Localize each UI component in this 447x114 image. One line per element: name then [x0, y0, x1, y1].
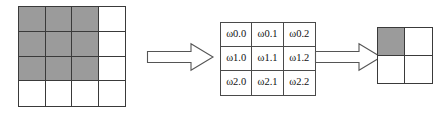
- input-cell-1-0: [19, 32, 46, 57]
- input-cell-3-1: [46, 81, 73, 106]
- input-cell-2-1: [46, 57, 73, 82]
- input-cell-3-2: [72, 81, 99, 106]
- output-cell-0-0: [378, 28, 405, 56]
- input-cell-0-2: [72, 7, 99, 32]
- kernel-cell-0-0: ω0.0: [221, 23, 252, 47]
- input-cell-1-1: [46, 32, 73, 57]
- convolution-diagram: ω0.0ω0.1ω0.2ω1.0ω1.1ω1.2ω2.0ω2.1ω2.2: [0, 0, 447, 114]
- output-cell-1-0: [378, 56, 405, 84]
- kernel-cell-0-1: ω0.1: [252, 23, 283, 47]
- input-cell-2-0: [19, 57, 46, 82]
- input-feature-map: [18, 6, 126, 107]
- convolution-kernel: ω0.0ω0.1ω0.2ω1.0ω1.1ω1.2ω2.0ω2.1ω2.2: [220, 22, 316, 96]
- kernel-cell-1-0: ω1.0: [221, 47, 252, 71]
- input-cell-0-1: [46, 7, 73, 32]
- input-cell-2-3: [99, 57, 126, 82]
- output-feature-map: [377, 27, 433, 84]
- arrow-kernel-to-output-icon: [315, 43, 382, 71]
- input-cell-0-0: [19, 7, 46, 32]
- kernel-cell-2-1: ω2.1: [252, 71, 283, 95]
- input-cell-1-3: [99, 32, 126, 57]
- input-cell-3-0: [19, 81, 46, 106]
- input-cell-1-2: [72, 32, 99, 57]
- input-cell-0-3: [99, 7, 126, 32]
- input-cell-3-3: [99, 81, 126, 106]
- output-cell-1-1: [405, 56, 432, 84]
- kernel-cell-2-2: ω2.2: [284, 71, 315, 95]
- input-cell-2-2: [72, 57, 99, 82]
- kernel-cell-1-2: ω1.2: [284, 47, 315, 71]
- arrow-input-to-kernel-icon: [147, 43, 214, 71]
- kernel-cell-2-0: ω2.0: [221, 71, 252, 95]
- kernel-cell-1-1: ω1.1: [252, 47, 283, 71]
- output-cell-0-1: [405, 28, 432, 56]
- kernel-cell-0-2: ω0.2: [284, 23, 315, 47]
